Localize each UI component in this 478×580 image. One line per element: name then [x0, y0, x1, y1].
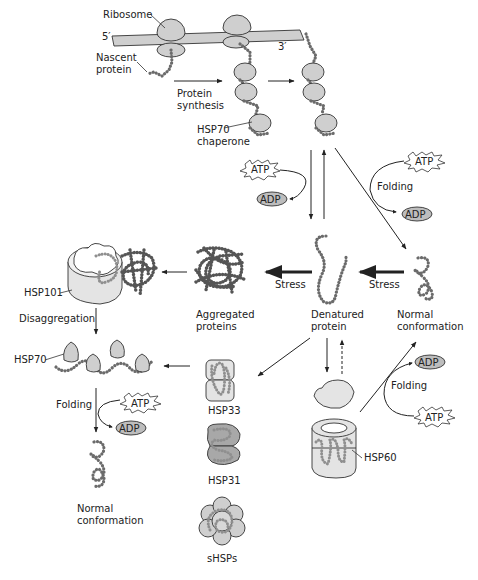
denatured-label-2: protein [311, 321, 347, 332]
normal-right-label-1: Normal [397, 309, 433, 320]
atp-label-lower-left: ATP [131, 398, 149, 409]
hsp70-bound-chain-2 [302, 34, 337, 135]
atp-burst-lower-left: ATP [120, 393, 161, 413]
normal-conformation-left-chain [91, 442, 104, 487]
hsp33-label: HSP33 [208, 405, 241, 416]
adp-label-lower-right: ADP [418, 357, 439, 368]
hsp31-complex [207, 424, 240, 465]
normal-right-label-2: conformation [397, 321, 464, 332]
adp-label-lower-left: ADP [119, 423, 140, 434]
shsps-complex [199, 497, 245, 545]
normal-left-label-2: conformation [77, 515, 144, 526]
stress-label-left: Stress [275, 279, 306, 290]
shsps-label: sHSPs [207, 553, 237, 564]
hsp70-bound-chain-1 [234, 44, 271, 135]
nascent-pointer [137, 62, 147, 72]
hsp101-complex [68, 243, 156, 304]
hsp70-left-pointer [45, 354, 64, 360]
aggregated-label-1: Aggregated [196, 309, 254, 320]
hsp70-chaperone-label-2: chaperone [197, 136, 250, 147]
normal-conformation-right-chain [415, 258, 432, 299]
folding-label-right: Folding [377, 181, 413, 192]
normal-left-label-1: Normal [77, 503, 113, 514]
synthesis-label-1: Protein [177, 88, 212, 99]
hsp60-to-normal-arrow [360, 342, 416, 412]
to-hsp33-arrow [258, 338, 310, 376]
synthesis-label-2: synthesis [177, 100, 224, 111]
adp-oval-lower-right: ADP [415, 355, 445, 369]
nascent-label-2: protein [96, 64, 132, 75]
denatured-label-1: Denatured [311, 309, 364, 320]
aggregated-label-2: proteins [196, 321, 237, 332]
atp-burst-right: ATP [404, 152, 445, 172]
hsp-pathway-diagram: 5′ 3′ Ribosome Nascent protein Protein s… [0, 0, 478, 580]
folding-diagonal-arrow [335, 148, 406, 249]
folding-label-lower-right: Folding [391, 380, 427, 391]
atp-label-lower-right: ATP [425, 412, 443, 423]
denatured-protein-chain [316, 236, 346, 303]
folding-label-left: Folding [56, 399, 92, 410]
atp-adp-curve-lower-left [98, 400, 120, 427]
hsp70-disaggregation-chain [56, 340, 154, 373]
aggregated-proteins-tangle [196, 248, 246, 292]
adp-oval-left: ADP [257, 192, 287, 206]
hsp60-label: HSP60 [364, 452, 397, 463]
hsp60-complex [312, 380, 356, 478]
mrna-strand [112, 30, 304, 46]
adp-label-right: ADP [405, 209, 426, 220]
adp-oval-right: ADP [402, 207, 432, 221]
three-prime-label: 3′ [278, 41, 287, 52]
adp-label-left: ADP [260, 194, 281, 205]
hsp33-complex [206, 360, 234, 401]
hsp70-left-label: HSP70 [14, 354, 47, 365]
nascent-label-1: Nascent [96, 52, 137, 63]
stress-label-right: Stress [369, 279, 400, 290]
atp-burst-lower-right: ATP [414, 407, 455, 427]
hsp70-chaperone-label-1: HSP70 [197, 124, 230, 135]
five-prime-label: 5′ [102, 31, 111, 42]
hsp31-label: HSP31 [208, 475, 241, 486]
atp-label-right: ATP [415, 156, 433, 167]
atp-burst-left: ATP [240, 160, 280, 180]
disaggregation-label: Disaggregation [19, 313, 95, 324]
atp-label-left: ATP [251, 164, 269, 175]
hsp101-label: HSP101 [24, 287, 63, 298]
ribosome-pointer [150, 14, 165, 28]
ribosome-2 [223, 15, 251, 48]
adp-oval-lower-left: ADP [116, 421, 146, 435]
ribosome-label: Ribosome [103, 9, 152, 20]
